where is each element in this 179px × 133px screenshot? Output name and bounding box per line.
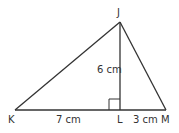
triangle-diagram: J K L M 6 cm 7 cm 3 cm xyxy=(0,0,179,133)
length-label-jl: 6 cm xyxy=(97,64,122,75)
point-label-k: K xyxy=(8,114,15,125)
right-angle-marker xyxy=(109,99,120,110)
point-label-j: J xyxy=(116,7,120,18)
side-jm xyxy=(120,22,166,110)
length-label-lm: 3 cm xyxy=(133,114,158,125)
point-label-m: M xyxy=(161,114,170,125)
length-label-kl: 7 cm xyxy=(56,114,81,125)
point-label-l: L xyxy=(117,114,123,125)
